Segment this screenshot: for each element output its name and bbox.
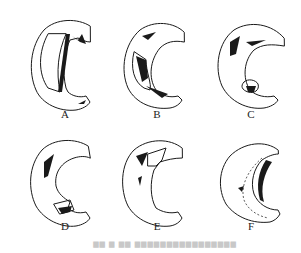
panel-label-e: E — [112, 220, 202, 232]
meniscus-a-drawing — [20, 12, 110, 120]
figure: A B C D — [0, 0, 301, 253]
panel-c: C — [206, 12, 296, 120]
panel-e: E — [112, 132, 202, 240]
panel-f: F — [206, 132, 296, 240]
panel-label-d: D — [20, 220, 110, 232]
panel-d: D — [20, 132, 110, 240]
panel-b: B — [112, 12, 202, 120]
panel-label-f: F — [206, 220, 296, 232]
panel-label-c: C — [206, 108, 296, 120]
panel-a: A — [20, 12, 110, 120]
panel-label-b: B — [112, 108, 202, 120]
meniscus-b-drawing — [112, 12, 202, 120]
figure-caption: ▆▆ ▆ ▆▆ ▆▆▆▆▆▆▆▆▆▆▆▆▆▆▆▆ — [85, 240, 245, 248]
panel-label-a: A — [20, 108, 110, 120]
meniscus-c-drawing — [206, 12, 296, 120]
